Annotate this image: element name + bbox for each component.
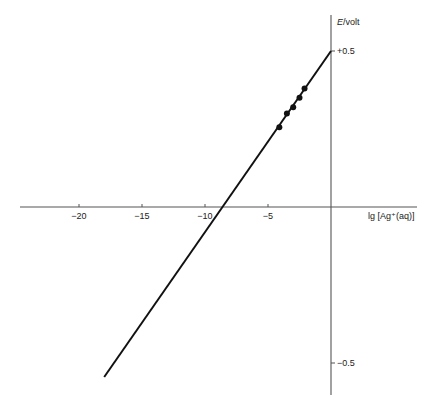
y-axis-label: E/volt [337, 17, 360, 27]
x-tick-label: −20 [71, 211, 86, 221]
x-axis-label: lg [Ag⁺(aq)] [368, 211, 415, 221]
x-tick-label: −15 [134, 211, 149, 221]
chart-canvas: −20−15−10−5 +0.5−0.5 E/volt lg [Ag⁺(aq)] [0, 0, 437, 408]
data-point [284, 110, 290, 116]
y-tick-label: +0.5 [337, 46, 355, 56]
data-point [297, 95, 303, 101]
data-point [276, 124, 282, 130]
data-point [290, 104, 296, 110]
y-axis-label-unit: /volt [343, 17, 360, 27]
y-tick-label: −0.5 [337, 358, 355, 368]
data-point [302, 85, 308, 91]
x-tick-label: −5 [263, 211, 273, 221]
x-tick-label: −10 [197, 211, 212, 221]
